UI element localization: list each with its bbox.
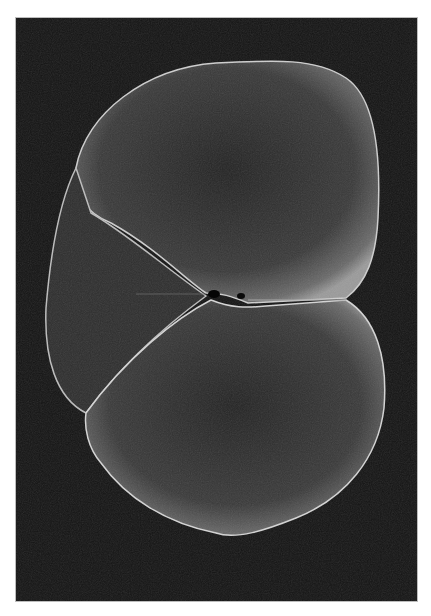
spinal-cord-section xyxy=(16,18,418,602)
micrograph-frame xyxy=(15,17,418,602)
central-canal xyxy=(208,290,220,298)
